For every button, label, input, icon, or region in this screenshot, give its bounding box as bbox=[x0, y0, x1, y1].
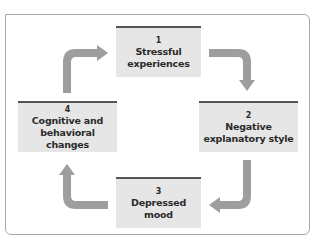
node-number: 4 bbox=[65, 105, 71, 115]
node-cognitive-behavioral-changes: 4 Cognitive and behavioral changes bbox=[18, 101, 117, 152]
node-label: Negative explanatory style bbox=[203, 121, 293, 145]
arrow-3-to-4-icon bbox=[67, 174, 108, 205]
node-number: 1 bbox=[156, 36, 162, 46]
node-stressful-experiences: 1 Stressful experiences bbox=[116, 26, 201, 77]
arrow-1-to-2-icon bbox=[209, 53, 247, 80]
node-negative-explanatory-style: 2 Negative explanatory style bbox=[199, 101, 298, 152]
arrow-4-to-1-icon bbox=[67, 53, 98, 93]
node-label: Cognitive and behavioral changes bbox=[18, 115, 117, 151]
node-number: 3 bbox=[156, 187, 162, 197]
node-number: 2 bbox=[246, 111, 252, 121]
node-label: Depressed mood bbox=[131, 197, 186, 221]
arrow-2-to-3-icon bbox=[219, 160, 247, 205]
node-label: Stressful experiences bbox=[127, 46, 190, 70]
node-depressed-mood: 3 Depressed mood bbox=[116, 177, 201, 228]
